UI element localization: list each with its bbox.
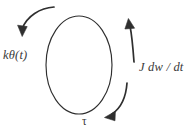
inertia-torque-arrow (125, 19, 135, 63)
spring-torque-label: kθ(t) (3, 49, 28, 62)
torque-diagram: kθ(t) J dw / dt τ (0, 0, 191, 133)
applied-torque-label: τ (82, 116, 87, 128)
spring-torque-arrow (18, 7, 54, 37)
rotational-inertia-ellipse (46, 16, 112, 114)
inertia-torque-label: J dw / dt (139, 61, 184, 74)
